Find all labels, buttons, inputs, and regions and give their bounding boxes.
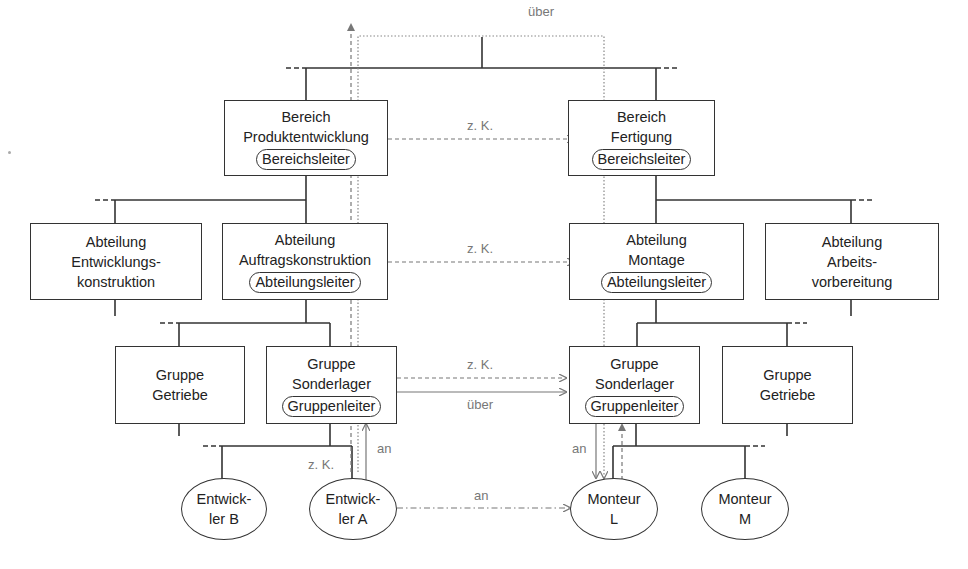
- box-subtitle: Getriebe: [152, 385, 208, 405]
- person-name-2: M: [739, 509, 751, 529]
- person-name-2: ler A: [338, 509, 367, 529]
- person-name: Monteur: [718, 489, 771, 509]
- box-title: Abteilung: [626, 230, 686, 250]
- box-subtitle: Montage: [628, 250, 684, 270]
- box-title: Abteilung: [822, 232, 882, 252]
- box-title: Gruppe: [156, 365, 204, 385]
- role-badge: Bereichsleiter: [256, 149, 356, 170]
- ellipse-monteur-m[interactable]: Monteur M: [701, 478, 789, 540]
- box-abteilung-montage[interactable]: Abteilung Montage Abteilungsleiter: [569, 223, 744, 300]
- box-gruppe-sonderlager-left[interactable]: Gruppe Sonderlager Gruppenleiter: [266, 346, 397, 424]
- box-subtitle: Fertigung: [611, 127, 672, 147]
- label-person-an: an: [474, 488, 488, 503]
- box-title: Gruppe: [610, 354, 658, 374]
- label-entwickler-an: an: [377, 441, 391, 456]
- box-subtitle: Sonderlager: [595, 374, 674, 394]
- box-title: Bereich: [281, 107, 330, 127]
- ellipse-entwickler-a[interactable]: Entwick- ler A: [309, 478, 397, 540]
- box-abteilung-auftragskonstruktion[interactable]: Abteilung Auftragskonstruktion Abteilung…: [222, 223, 388, 300]
- label-gruppe-zk: z. K.: [467, 357, 493, 372]
- ellipse-entwickler-b[interactable]: Entwick- ler B: [181, 478, 267, 540]
- role-badge: Abteilungsleiter: [601, 272, 712, 293]
- box-subtitle: Sonderlager: [292, 374, 371, 394]
- box-title: Gruppe: [763, 365, 811, 385]
- box-title: Bereich: [617, 107, 666, 127]
- box-abteilung-entwicklungskonstruktion[interactable]: Abteilung Entwicklungs- konstruktion: [30, 223, 202, 300]
- role-badge: Abteilungsleiter: [249, 272, 360, 293]
- box-gruppe-getriebe-right[interactable]: Gruppe Getriebe: [722, 346, 853, 424]
- person-name-2: ler B: [209, 509, 239, 529]
- box-subtitle: Getriebe: [760, 385, 816, 405]
- person-name-2: L: [610, 509, 618, 529]
- label-top-ueber: über: [528, 4, 554, 19]
- ellipse-monteur-l[interactable]: Monteur L: [570, 478, 658, 540]
- box-subtitle-2: konstruktion: [77, 272, 155, 292]
- person-name: Entwick-: [197, 489, 252, 509]
- label-monteur-an: an: [572, 441, 586, 456]
- box-title: Gruppe: [307, 354, 355, 374]
- label-entwickler-zk: z. K.: [308, 457, 334, 472]
- box-subtitle: Entwicklungs-: [71, 252, 160, 272]
- speck-dot: [8, 151, 11, 154]
- box-bereich-fertigung[interactable]: Bereich Fertigung Bereichsleiter: [568, 100, 715, 176]
- role-badge: Gruppenleiter: [585, 396, 685, 417]
- box-subtitle-2: vorbereitung: [812, 272, 893, 292]
- box-title: Abteilung: [86, 232, 146, 252]
- person-name: Monteur: [587, 489, 640, 509]
- box-title: Abteilung: [275, 230, 335, 250]
- box-gruppe-sonderlager-right[interactable]: Gruppe Sonderlager Gruppenleiter: [569, 346, 700, 424]
- box-subtitle: Auftragskonstruktion: [239, 250, 371, 270]
- box-abteilung-arbeitsvorbereitung[interactable]: Abteilung Arbeits- vorbereitung: [765, 223, 939, 300]
- role-badge: Gruppenleiter: [282, 396, 382, 417]
- box-subtitle: Arbeits-: [827, 252, 877, 272]
- role-badge: Bereichsleiter: [592, 149, 692, 170]
- box-subtitle: Produktentwicklung: [243, 127, 369, 147]
- box-gruppe-getriebe-left[interactable]: Gruppe Getriebe: [115, 346, 245, 424]
- label-abteilung-zk: z. K.: [467, 241, 493, 256]
- person-name: Entwick-: [326, 489, 381, 509]
- box-bereich-produktentwicklung[interactable]: Bereich Produktentwicklung Bereichsleite…: [224, 100, 388, 176]
- label-bereich-zk: z. K.: [467, 118, 493, 133]
- label-gruppe-ueber: über: [467, 397, 493, 412]
